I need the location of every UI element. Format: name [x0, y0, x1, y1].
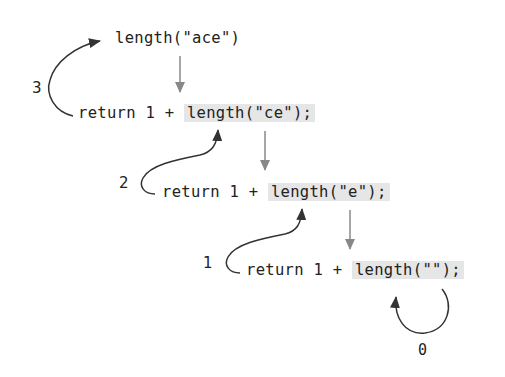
step-1-prefix: return 1 +	[78, 104, 184, 122]
step-2-call-highlight: length("e");	[268, 183, 390, 201]
call-arrow-3-head	[345, 239, 355, 250]
step-line-2: return 1 + length("e");	[162, 180, 390, 204]
base-case-loop-arrow	[396, 289, 449, 333]
call-arrow-1-head	[175, 82, 185, 93]
step-3-prefix: return 1 +	[246, 261, 352, 279]
return-label-3: 3	[32, 79, 42, 97]
return-label-2: 2	[119, 174, 129, 192]
step-line-3: return 1 + length("");	[246, 258, 464, 282]
call-arrow-2-head	[260, 160, 270, 171]
step-line-1: return 1 + length("ce");	[78, 101, 315, 125]
step-2-prefix: return 1 +	[162, 183, 268, 201]
step-1-call-highlight: length("ce");	[184, 104, 315, 122]
step-3-call-highlight: length("");	[352, 261, 464, 279]
return-label-1: 1	[203, 254, 213, 272]
top-call: length("ace")	[115, 26, 240, 50]
base-case-label: 0	[418, 341, 427, 359]
